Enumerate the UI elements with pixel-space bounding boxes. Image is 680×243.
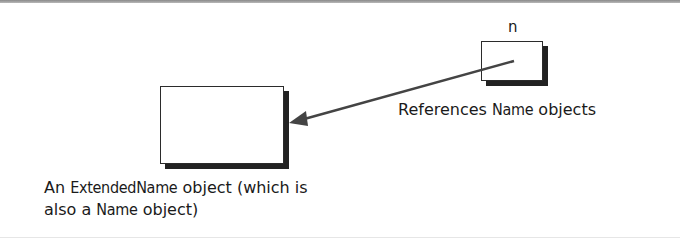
reference-caption-suffix: objects [533, 100, 596, 119]
object-caption: An ExtendedName object (which is also a … [44, 177, 344, 221]
object-caption-suffix: object (which is [177, 178, 307, 197]
object-caption-line-1: An ExtendedName object (which is [44, 177, 344, 199]
object-caption-line-2: also a Name object) [44, 199, 344, 221]
object-caption-prefix: An [44, 178, 70, 197]
object-caption-class-name: ExtendedName [70, 178, 177, 197]
bottom-rule [0, 237, 680, 238]
object-caption-line2-prefix: also a [44, 200, 96, 219]
object-caption-line2-suffix: object) [138, 200, 199, 219]
object-caption-line2-class-name: Name [96, 200, 137, 219]
reference-caption: References Name objects [398, 99, 596, 121]
reference-caption-class-name: Name [492, 100, 533, 119]
reference-caption-prefix: References [398, 100, 492, 119]
